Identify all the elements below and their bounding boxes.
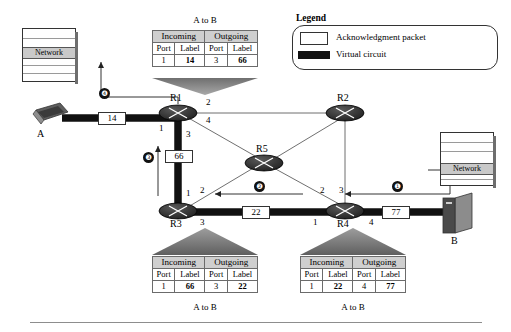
- r3-sub-label-in: Label: [175, 269, 205, 281]
- port-label-r4-diag: 2: [320, 186, 325, 195]
- r3-sub-port-out: Port: [205, 269, 227, 281]
- port-label-r4-left: 1: [313, 218, 318, 227]
- r1-cell-port-in: 1: [153, 55, 175, 67]
- port-label-r3-right: 3: [200, 218, 205, 227]
- r1-sub-label-in: Label: [175, 43, 205, 55]
- table-row: 1 66 3 22: [153, 281, 258, 293]
- r1-sub-label-out: Label: [227, 43, 257, 55]
- table-pointer-r3: [152, 228, 258, 255]
- r3-cell-port-out: 3: [205, 281, 227, 293]
- port-label-r3-up: 1: [186, 189, 191, 198]
- r1-header-incoming: Incoming: [153, 31, 205, 43]
- table-row: Incoming Outgoing: [153, 257, 258, 269]
- table-row: 1 22 4 77: [301, 281, 406, 293]
- router-R3[interactable]: [159, 203, 197, 219]
- port-label-r3-diag: 2: [200, 186, 205, 195]
- network-left-label: Network: [23, 47, 75, 59]
- r1-forwarding-table: Incoming Outgoing Port Label Port Label …: [152, 30, 258, 67]
- link-label-22: 22: [242, 206, 270, 219]
- table-row: Port Label Port Label: [301, 269, 406, 281]
- link-label-77: 77: [382, 206, 410, 219]
- r4-sub-port-in: Port: [301, 269, 323, 281]
- r3-sub-label-out: Label: [227, 269, 257, 281]
- router-label-R4: R4: [337, 219, 349, 229]
- port-label-r1-upper-right: 2: [206, 98, 211, 107]
- r1-header-outgoing: Outgoing: [205, 31, 258, 43]
- network-right-label: Network: [441, 163, 493, 175]
- r4-cell-port-in: 1: [301, 281, 323, 293]
- ack-lines: [101, 62, 450, 196]
- port-label-r1-down: 3: [186, 130, 191, 139]
- r3-header-incoming: Incoming: [153, 257, 205, 269]
- network-diagram: Network Network A B R1 R2 R3 R4 R5 1 2 3…: [0, 0, 511, 332]
- host-label-a: A: [37, 128, 44, 139]
- r4-sub-label-in: Label: [323, 269, 353, 281]
- table-row: Port Label Port Label: [153, 43, 258, 55]
- r3-forwarding-table: Incoming Outgoing Port Label Port Label …: [152, 256, 258, 293]
- table-row: Port Label Port Label: [153, 269, 258, 281]
- r1-sub-port-out: Port: [205, 43, 227, 55]
- callout-badge-4: ❹: [99, 88, 110, 99]
- router-label-R3: R3: [170, 219, 182, 229]
- r3-cell-label-in: 66: [175, 281, 205, 293]
- port-label-r4-right: 4: [369, 218, 374, 227]
- r1-sub-port-in: Port: [153, 43, 175, 55]
- router-R2[interactable]: [326, 105, 364, 121]
- ack-line-4: [101, 62, 178, 104]
- link-label-14: 14: [98, 112, 126, 125]
- r4-cell-label-out: 77: [375, 281, 405, 293]
- table-row: Incoming Outgoing: [153, 31, 258, 43]
- r4-header-incoming: Incoming: [301, 257, 353, 269]
- legend-label-ack: Acknowledgment packet: [336, 32, 426, 43]
- server-icon-b: [443, 193, 472, 233]
- router-R1[interactable]: [159, 105, 197, 121]
- router-label-R2: R2: [337, 93, 349, 103]
- r1-cell-label-in: 14: [175, 55, 205, 67]
- r4-cell-label-in: 22: [323, 281, 353, 293]
- r3-sub-port-in: Port: [153, 269, 175, 281]
- callout-badge-2: ❷: [254, 181, 265, 192]
- port-label-r4-up: 3: [339, 186, 344, 195]
- legend-swatch-vc: [298, 51, 330, 59]
- network-left-shadow: [75, 32, 78, 84]
- r1-table-caption-top: A to B: [152, 15, 258, 25]
- r3-header-outgoing: Outgoing: [205, 257, 258, 269]
- legend-swatch-ack: [300, 32, 328, 45]
- table-pointer-r4: [300, 228, 406, 255]
- callout-badge-1: ❶: [392, 181, 403, 192]
- r4-sub-label-out: Label: [375, 269, 405, 281]
- port-label-r1-diag: 4: [206, 116, 211, 125]
- callout-badge-3: ❸: [143, 152, 154, 163]
- r1-cell-port-out: 3: [205, 55, 227, 67]
- router-R5[interactable]: [245, 155, 283, 171]
- link-label-66: 66: [165, 150, 193, 163]
- table-row: Incoming Outgoing: [301, 257, 406, 269]
- r4-sub-port-out: Port: [353, 269, 375, 281]
- router-label-R1: R1: [170, 93, 182, 103]
- legend-title: Legend: [296, 13, 326, 23]
- host-label-b: B: [451, 235, 458, 246]
- r4-header-outgoing: Outgoing: [353, 257, 406, 269]
- r3-table-caption-bottom: A to B: [152, 302, 258, 312]
- network-icon-right: Network: [440, 132, 494, 186]
- r4-table-caption-bottom: A to B: [300, 302, 406, 312]
- footer-rule: [30, 322, 482, 323]
- r3-cell-label-out: 22: [227, 281, 257, 293]
- r3-cell-port-in: 1: [153, 281, 175, 293]
- network-icon-left: Network: [22, 28, 76, 82]
- table-pointer-r1: [152, 78, 258, 95]
- r1-cell-label-out: 66: [227, 55, 257, 67]
- router-R4[interactable]: [326, 203, 364, 219]
- r4-cell-port-out: 4: [353, 281, 375, 293]
- table-row: 1 14 3 66: [153, 55, 258, 67]
- network-right-shadow: [493, 136, 496, 188]
- legend-label-vc: Virtual circuit: [336, 49, 386, 60]
- port-label-r1-left: 1: [159, 124, 164, 133]
- r4-forwarding-table: Incoming Outgoing Port Label Port Label …: [300, 256, 406, 293]
- router-label-R5: R5: [256, 144, 268, 154]
